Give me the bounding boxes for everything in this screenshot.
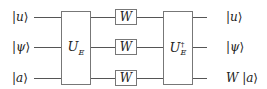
gate-w-a: W [115, 70, 137, 86]
input-label-a: |a⟩ [12, 71, 28, 85]
quantum-circuit: |u⟩ |ψ⟩ |a⟩ UE W W W U†E |u⟩ |ψ⟩ W |a⟩ [0, 0, 267, 89]
input-label-psi: |ψ⟩ [12, 40, 30, 54]
gate-ue-dagger: U†E [163, 11, 193, 85]
gate-ue: UE [61, 11, 91, 85]
wire-psi-in [34, 47, 61, 48]
wire-a-in [34, 78, 61, 79]
gate-w-psi: W [115, 39, 137, 55]
output-label-wa: W |a⟩ [226, 71, 258, 85]
wire-u-in [34, 17, 61, 18]
output-label-psi: |ψ⟩ [226, 40, 244, 54]
output-label-u: |u⟩ [226, 10, 242, 24]
gate-w-u: W [115, 9, 137, 25]
input-label-u: |u⟩ [12, 10, 28, 24]
gate-ue-label: UE [62, 39, 90, 57]
gate-ue-dagger-label: U†E [164, 40, 192, 57]
